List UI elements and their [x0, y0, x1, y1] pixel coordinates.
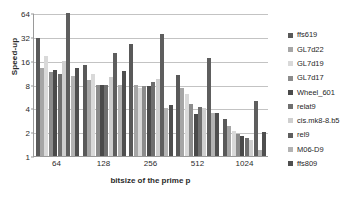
bar-group	[221, 14, 268, 156]
y-axis-tick-label: 32	[21, 33, 30, 42]
bar-group	[128, 14, 175, 156]
x-axis-tick-label: 1024	[221, 159, 268, 168]
legend-item-label: M06-D9	[297, 146, 324, 154]
legend-item[interactable]: GL7d22	[288, 42, 356, 56]
speedup-bar-chart: Speed-up 1248163264 641282565121024 bits…	[0, 0, 356, 200]
legend-item[interactable]: ffs619	[288, 28, 356, 42]
legend: ffs619GL7d22GL7d19GL7d17Wheel_601relat9c…	[288, 28, 356, 171]
legend-swatch-icon	[288, 161, 293, 166]
legend-item[interactable]: cis.mk8-8.b5	[288, 114, 356, 128]
legend-item[interactable]: relat9	[288, 99, 356, 113]
legend-item-label: relat9	[297, 103, 316, 111]
legend-swatch-icon	[288, 104, 293, 109]
y-axis-tick-label: 64	[21, 10, 30, 19]
legend-item[interactable]: GL7d19	[288, 57, 356, 71]
legend-item-label: cis.mk8-8.b5	[297, 117, 340, 125]
y-axis-tick-mark	[31, 157, 34, 158]
bar	[262, 132, 266, 156]
legend-item-label: GL7d19	[297, 60, 324, 68]
legend-item-label: ffs619	[297, 31, 317, 39]
bar	[75, 68, 79, 156]
legend-swatch-icon	[288, 76, 293, 81]
x-axis-tick-labels: 641282565121024	[33, 159, 268, 168]
bar	[215, 113, 219, 156]
y-axis-tick-label: 1	[26, 153, 30, 162]
x-axis-tick-label: 64	[33, 159, 80, 168]
bar	[122, 71, 126, 156]
bar-group	[81, 14, 128, 156]
y-axis-tick-label: 8	[26, 81, 30, 90]
legend-swatch-icon	[288, 90, 293, 95]
y-axis-tick-label: 16	[21, 57, 30, 66]
legend-item[interactable]: ffs809	[288, 157, 356, 171]
legend-item[interactable]: GL7d17	[288, 71, 356, 85]
bar	[169, 105, 173, 156]
bar-groups	[34, 14, 268, 156]
bar-group	[174, 14, 221, 156]
legend-item-label: GL7d22	[297, 46, 324, 54]
y-axis-tick-label: 4	[26, 105, 30, 114]
y-axis-title: Speed-up	[10, 21, 19, 93]
y-axis-tick-label: 2	[26, 129, 30, 138]
legend-item-label: rel9	[297, 131, 310, 139]
legend-swatch-icon	[288, 33, 293, 38]
legend-item[interactable]: rel9	[288, 128, 356, 142]
x-axis-tick-label: 128	[80, 159, 127, 168]
legend-swatch-icon	[288, 147, 293, 152]
legend-item-label: ffs809	[297, 160, 317, 168]
legend-swatch-icon	[288, 133, 293, 138]
x-axis-tick-label: 256	[127, 159, 174, 168]
bar	[254, 101, 258, 156]
legend-swatch-icon	[288, 47, 293, 52]
legend-item-label: Wheel_601	[297, 89, 335, 97]
x-axis-tick-label: 512	[174, 159, 221, 168]
legend-item[interactable]: M06-D9	[288, 142, 356, 156]
legend-item[interactable]: Wheel_601	[288, 85, 356, 99]
legend-swatch-icon	[288, 61, 293, 66]
legend-item-label: GL7d17	[297, 74, 324, 82]
x-axis-title: bitsize of the prime p	[33, 176, 268, 185]
gridline	[34, 157, 268, 158]
bar-group	[34, 14, 81, 156]
legend-swatch-icon	[288, 118, 293, 123]
plot-area: 1248163264	[33, 14, 268, 157]
